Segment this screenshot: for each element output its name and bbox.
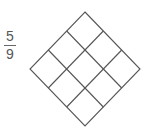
grid-line xyxy=(48,50,103,107)
grid-line xyxy=(48,31,103,88)
grid-line xyxy=(67,50,122,107)
grid-line xyxy=(67,31,122,88)
rotated-grid-diagram xyxy=(0,0,151,129)
grid-outline xyxy=(30,12,140,126)
